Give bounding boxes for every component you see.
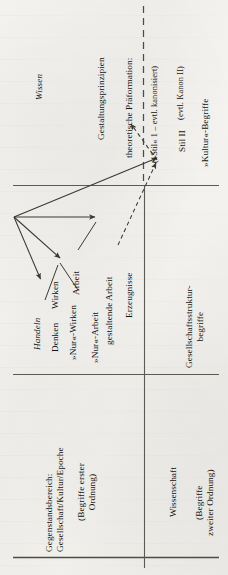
gesellschaftsstruktur-line-2: begriffe <box>195 285 206 368</box>
label-gestaltungsprinzipien: Gestaltungsprinzipien <box>96 57 107 140</box>
label-theoretische-praeformation: theoretische Präformation: <box>124 58 135 158</box>
label-begriffe-erster-ordnung: (Begriffe erster Ordnung) <box>76 463 98 521</box>
label-wirken: Wirken <box>50 281 61 309</box>
arrow-node-to-arbeit <box>14 217 60 258</box>
label-stil-1-kanonisiert: (»Stil« 1 – evtl. kanonisiert) <box>150 66 160 163</box>
gegenstandsbereich-line-1: Gegenstandsbereich: <box>44 447 55 552</box>
gesellschaftsstruktur-line-1: Gesellschaftsstruktur- <box>184 285 195 368</box>
label-gestaltende-arbeit: gestaltende Arbeit <box>104 277 115 345</box>
begriffe-erster-line-1: (Begriffe erster <box>76 463 87 521</box>
label-wissenschaft: Wissenschaft <box>168 467 179 517</box>
dashed-arrow-erzeugnisse-to-stil2 <box>118 163 156 245</box>
label-kultur-begriffe: »Kultur«-Begriffe <box>200 99 211 167</box>
label-nur-wirken: »Nur«-Wirken <box>68 305 79 360</box>
arrow-node-to-denken <box>14 217 41 279</box>
gegenstandsbereich-line-2: Gesellschaft/Kultur/Epoche <box>55 447 66 552</box>
connector-arbeit-to-gestaltende <box>78 222 96 250</box>
arrow-node-to-stil-2 <box>14 158 157 217</box>
label-begriffe-zweiter-ordnung: (Begriffe zweiter Ordnung) <box>194 469 216 536</box>
label-erzeugnisse: Erzeugnisse <box>124 273 135 319</box>
label-gesellschaftsstrukturbegriffe: Gesellschaftsstruktur- begriffe <box>184 285 206 368</box>
label-handeln: Handeln <box>32 318 43 350</box>
label-wissen: Wissen <box>34 74 45 100</box>
label-stil-2: Stil II <box>177 130 188 152</box>
begriffe-zweiter-line-1: (Begriffe <box>194 469 205 536</box>
begriffe-zweiter-line-2: zweiter Ordnung) <box>205 469 216 536</box>
label-gegenstandsbereich: Gegenstandsbereich: Gesellschaft/Kultur/… <box>44 447 66 552</box>
label-kanon-2: (evtl. Kanon II) <box>176 66 186 120</box>
label-arbeit: Arbeit <box>71 271 82 295</box>
figure-page: Wissen Gestaltungsprinzipien theoretisch… <box>0 0 228 575</box>
label-nur-arbeit: »Nur«-Arbeit <box>90 312 101 363</box>
begriffe-erster-line-2: Ordnung) <box>87 463 98 521</box>
label-denken: Denken <box>50 323 61 352</box>
